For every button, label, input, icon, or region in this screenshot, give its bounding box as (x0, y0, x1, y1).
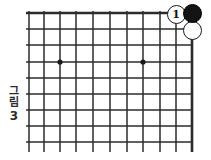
grid-vertical-lines (29, 11, 192, 152)
star-point-left (57, 59, 62, 64)
figure-caption: 그 림 3 (4, 86, 24, 140)
caption-char-2: 림 (9, 97, 19, 108)
star-point-right (140, 59, 145, 64)
stone-move-number-label: 1 (168, 6, 185, 23)
white-stone-below-corner[interactable] (183, 21, 202, 40)
caption-number: 3 (10, 110, 18, 123)
black-stone-corner[interactable] (183, 4, 202, 23)
go-diagram-figure: 1 그 림 3 (0, 0, 211, 160)
go-board-grid (0, 0, 211, 160)
go-board[interactable] (0, 0, 211, 160)
